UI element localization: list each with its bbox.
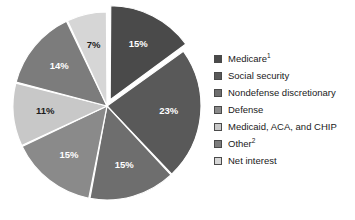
pie-slice-group xyxy=(13,6,201,200)
legend-item-label: Medicare1 xyxy=(228,54,271,64)
legend-item[interactable]: Medicaid, ACA, and CHIP xyxy=(214,118,355,135)
legend-item[interactable]: Other2 xyxy=(214,135,355,152)
legend-item[interactable]: Medicare1 xyxy=(214,50,355,67)
pie-slice-value-label: 14% xyxy=(50,60,70,71)
legend-item[interactable]: Nondefense discretionary xyxy=(214,84,355,101)
legend-footnote-marker: 1 xyxy=(267,52,271,59)
legend-swatch-icon xyxy=(214,106,222,114)
legend-item[interactable]: Social security xyxy=(214,67,355,84)
pie-svg: 15%23%15%15%11%14%7% xyxy=(0,0,214,220)
pie-slice-value-label: 7% xyxy=(87,39,101,50)
legend-swatch-icon xyxy=(214,55,222,63)
legend-item-label: Other2 xyxy=(228,139,255,149)
legend-item-label: Defense xyxy=(228,105,263,115)
legend-item[interactable]: Net interest xyxy=(214,152,355,169)
legend-item-label: Social security xyxy=(228,71,289,81)
legend-item[interactable]: Defense xyxy=(214,101,355,118)
legend-item-label: Net interest xyxy=(228,156,277,166)
legend-swatch-icon xyxy=(214,72,222,80)
legend-swatch-icon xyxy=(214,157,222,165)
pie-plot-area: 15%23%15%15%11%14%7% xyxy=(0,0,214,220)
pie-slice-value-label: 15% xyxy=(59,149,79,160)
pie-slice-value-label: 15% xyxy=(129,38,149,49)
pie-chart-figure: 15%23%15%15%11%14%7% Medicare1Social sec… xyxy=(0,0,355,220)
legend-swatch-icon xyxy=(214,140,222,148)
pie-slice-value-label: 11% xyxy=(36,105,55,116)
legend-item-label: Medicaid, ACA, and CHIP xyxy=(228,122,337,132)
legend-swatch-icon xyxy=(214,123,222,131)
legend-item-label: Nondefense discretionary xyxy=(228,88,336,98)
legend-swatch-icon xyxy=(214,89,222,97)
chart-legend: Medicare1Social securityNondefense discr… xyxy=(214,50,355,169)
pie-slice-value-label: 23% xyxy=(159,105,179,116)
pie-slice-value-label: 15% xyxy=(115,159,135,170)
legend-footnote-marker: 2 xyxy=(252,137,256,144)
